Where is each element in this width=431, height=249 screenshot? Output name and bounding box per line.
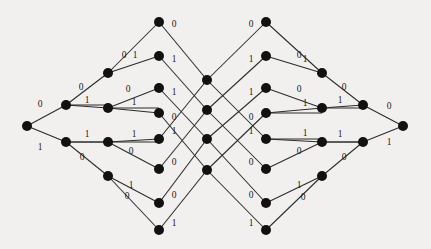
edge-bit-label: 1	[297, 180, 302, 190]
edge-label-layer: 0101100101101001101001011010010101101001…	[38, 19, 392, 228]
trellis-node	[154, 51, 164, 61]
trellis-svg: 0101100101101001101001011010010101101001…	[0, 0, 431, 249]
trellis-node	[398, 121, 408, 131]
trellis-edge	[363, 126, 403, 142]
trellis-edge	[159, 139, 207, 203]
trellis-edge	[159, 56, 207, 110]
trellis-edge	[207, 170, 266, 230]
edge-bit-label: 1	[132, 97, 137, 107]
trellis-edge	[363, 105, 403, 126]
edge-layer	[27, 22, 403, 230]
trellis-edge	[66, 142, 108, 176]
edge-bit-label: 1	[172, 218, 177, 228]
trellis-node	[22, 121, 32, 131]
trellis-edge	[108, 176, 159, 230]
trellis-edge	[207, 56, 266, 110]
edge-bit-label: 0	[249, 190, 254, 200]
trellis-node	[261, 134, 271, 144]
edge-bit-label: 1	[85, 129, 90, 139]
edge-bit-label: 0	[172, 112, 177, 122]
trellis-node	[202, 75, 212, 85]
edge-bit-label: 0	[80, 152, 85, 162]
trellis-edge	[266, 88, 322, 108]
trellis-edge	[159, 113, 207, 170]
edge-bit-label: 1	[249, 54, 254, 64]
edge-bit-label: 1	[249, 87, 254, 97]
trellis-node	[358, 137, 368, 147]
trellis-node	[154, 134, 164, 144]
trellis-edge	[207, 139, 266, 203]
trellis-edge	[207, 80, 266, 139]
trellis-edge	[207, 22, 266, 80]
edge-bit-label: 0	[172, 190, 177, 200]
node-layer	[22, 17, 408, 235]
edge-bit-label: 0	[125, 191, 130, 201]
edge-bit-label: 0	[297, 146, 302, 156]
trellis-edge	[266, 142, 322, 169]
edge-bit-label: 0	[342, 152, 347, 162]
trellis-node	[61, 137, 71, 147]
edge-bit-label: 1	[303, 128, 308, 138]
edge-bit-label: 1	[249, 126, 254, 136]
edge-bit-label: 0	[301, 192, 306, 202]
trellis-node	[261, 198, 271, 208]
trellis-edge	[108, 176, 159, 203]
edge-bit-label: 0	[172, 157, 177, 167]
trellis-edge	[108, 22, 159, 73]
trellis-node	[317, 171, 327, 181]
trellis-node	[202, 105, 212, 115]
trellis-edge	[108, 142, 159, 169]
edge-bit-label: 0	[79, 82, 84, 92]
trellis-node	[261, 164, 271, 174]
edge-bit-label: 0	[172, 19, 177, 29]
trellis-node	[154, 225, 164, 235]
edge-bit-label: 1	[85, 95, 90, 105]
edge-bit-label: 1	[338, 129, 343, 139]
trellis-node	[261, 83, 271, 93]
trellis-edge	[159, 22, 207, 80]
trellis-node	[261, 17, 271, 27]
trellis-node	[154, 198, 164, 208]
trellis-edge	[266, 22, 322, 73]
trellis-edge	[27, 126, 66, 142]
trellis-edge	[159, 88, 207, 139]
edge-bit-label: 1	[172, 87, 177, 97]
trellis-node	[103, 137, 113, 147]
trellis-node	[103, 171, 113, 181]
trellis-edge	[108, 108, 159, 113]
edge-bit-label: 0	[297, 84, 302, 94]
edge-bit-label: 0	[342, 82, 347, 92]
trellis-edge	[207, 110, 266, 169]
trellis-node	[154, 108, 164, 118]
trellis-node	[154, 83, 164, 93]
trellis-diagram-canvas: 0101100101101001101001011010010101101001…	[0, 0, 431, 249]
edge-bit-label: 0	[129, 146, 134, 156]
trellis-edge	[266, 176, 322, 203]
trellis-node	[202, 165, 212, 175]
edge-bit-label: 0	[249, 157, 254, 167]
trellis-edge	[159, 170, 207, 230]
edge-bit-label: 1	[387, 137, 392, 147]
edge-bit-label: 1	[38, 142, 43, 152]
edge-bit-label: 0	[387, 101, 392, 111]
edge-bit-label: 1	[133, 50, 138, 60]
edge-bit-label: 1	[249, 218, 254, 228]
trellis-edge	[159, 110, 207, 169]
trellis-node	[317, 103, 327, 113]
trellis-node	[261, 225, 271, 235]
trellis-edge	[207, 113, 266, 170]
edge-bit-label: 0	[122, 50, 127, 60]
trellis-node	[154, 164, 164, 174]
trellis-node	[103, 68, 113, 78]
trellis-node	[261, 51, 271, 61]
edge-bit-label: 1	[172, 54, 177, 64]
edge-bit-label: 1	[338, 95, 343, 105]
trellis-node	[202, 134, 212, 144]
edge-bit-label: 1	[132, 129, 137, 139]
edge-bit-label: 1	[172, 126, 177, 136]
trellis-node	[317, 137, 327, 147]
trellis-node	[154, 17, 164, 27]
edge-bit-label: 1	[129, 180, 134, 190]
edge-bit-label: 0	[297, 50, 302, 60]
edge-bit-label: 0	[38, 99, 43, 109]
